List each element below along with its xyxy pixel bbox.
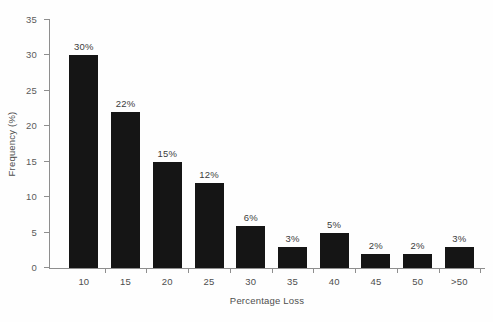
x-axis-tick (397, 268, 398, 273)
y-axis-tick: 25 (44, 90, 50, 91)
x-axis-category-label: 10 (78, 276, 89, 287)
bar-value-label: 2% (369, 240, 383, 251)
y-axis-tick-label: 20 (26, 120, 37, 131)
bar-value-label: 3% (452, 233, 466, 244)
y-axis-tick: 20 (44, 125, 50, 126)
x-axis-category-label: 50 (412, 276, 423, 287)
x-axis-tick (105, 268, 106, 273)
x-axis-title: Percentage Loss (49, 295, 485, 306)
y-axis-tick-label: 10 (26, 191, 37, 202)
plot-area: 0510152025303530%22%15%12%6%3%5%2%2%3% (49, 20, 485, 268)
y-axis-tick: 30 (44, 54, 50, 55)
bar: 30% (69, 55, 98, 268)
y-axis-tick: 0 (44, 267, 50, 268)
bar-value-label: 12% (199, 169, 219, 180)
y-axis-tick-label: 35 (26, 14, 37, 25)
x-axis-tick (188, 268, 189, 273)
x-axis-category-label: 25 (204, 276, 215, 287)
x-axis-category-label: 45 (370, 276, 381, 287)
bar-value-label: 6% (244, 212, 258, 223)
bar-chart-figure: Frequency (%) Percentage Loss 0510152025… (0, 0, 493, 322)
x-axis-category-label: >50 (451, 276, 468, 287)
x-axis-tick (355, 268, 356, 273)
y-axis-tick-label: 30 (26, 49, 37, 60)
x-axis-category-label: 30 (245, 276, 256, 287)
x-axis-tick (230, 268, 231, 273)
x-axis-line (49, 268, 485, 269)
y-axis-tick: 10 (44, 196, 50, 197)
y-axis-tick: 15 (44, 161, 50, 162)
bar: 3% (445, 247, 474, 268)
x-axis-tick (480, 268, 481, 273)
bar: 6% (236, 226, 265, 269)
bar: 2% (361, 254, 390, 268)
bar: 22% (111, 112, 140, 268)
y-axis-tick-label: 5 (32, 226, 37, 237)
x-axis-category-label: 20 (162, 276, 173, 287)
x-axis-tick (146, 268, 147, 273)
y-axis-tick: 35 (44, 19, 50, 20)
x-axis-category-label: 15 (120, 276, 131, 287)
x-axis-tick (313, 268, 314, 273)
y-axis-tick-label: 0 (32, 262, 37, 273)
bar-value-label: 30% (74, 41, 94, 52)
bar: 5% (320, 233, 349, 268)
bar-value-label: 15% (157, 148, 177, 159)
y-axis-tick: 5 (44, 232, 50, 233)
bar-value-label: 2% (411, 240, 425, 251)
x-axis-tick (272, 268, 273, 273)
x-axis-category-label: 35 (287, 276, 298, 287)
y-axis-tick-label: 25 (26, 84, 37, 95)
x-axis-tick (439, 268, 440, 273)
bar-value-label: 5% (327, 219, 341, 230)
bar: 12% (195, 183, 224, 268)
bar-value-label: 22% (116, 98, 136, 109)
x-axis-category-label: 40 (329, 276, 340, 287)
y-axis-tick-label: 15 (26, 155, 37, 166)
bar: 2% (403, 254, 432, 268)
bar-value-label: 3% (285, 233, 299, 244)
bar: 3% (278, 247, 307, 268)
y-axis-title: Frequency (%) (6, 112, 17, 177)
bar: 15% (153, 162, 182, 268)
